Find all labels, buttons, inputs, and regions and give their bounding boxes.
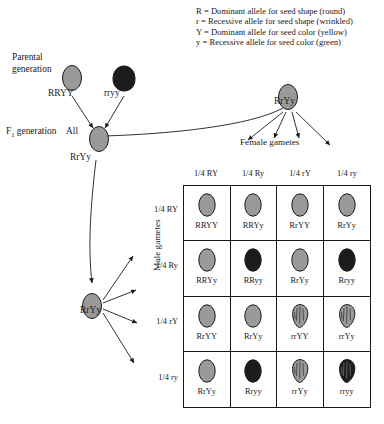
seed-wrinkled-yellow <box>335 301 359 331</box>
seed-wrinkled-yellow <box>288 301 312 331</box>
punnett-cell-genotype: RrYY <box>197 332 217 342</box>
punnett-cell-genotype: RrYY <box>290 221 310 231</box>
arrow-parent1-to-f1 <box>72 96 93 128</box>
punnett-cell-seed <box>195 301 219 331</box>
allele-legend: R = Dominant allele for seed shape (roun… <box>196 6 353 48</box>
punnett-cell-seed <box>335 301 359 331</box>
seed-round-green <box>335 245 359 275</box>
punnett-cell-seed <box>195 190 219 220</box>
male-gamete-tick-3: 1/4 rY <box>138 317 178 326</box>
punnett-cell-seed <box>335 245 359 275</box>
punnett-cell-genotype: RRYy <box>243 221 264 231</box>
punnett-cell-r4-c3[interactable]: rrYy <box>277 352 324 407</box>
punnett-cell-genotype: RrYy <box>197 387 216 397</box>
f1-generation-label: F1 generation <box>6 126 56 138</box>
seed-round-yellow <box>195 356 219 386</box>
punnett-cell-genotype: rrYY <box>291 332 309 342</box>
seed-round-yellow <box>335 190 359 220</box>
legend-line-r: r = Recessive allele for seed shape (wri… <box>196 16 353 26</box>
female-gamete-tick-1: 1/4 RY <box>183 169 229 178</box>
parental-generation-label-line1: Parental <box>12 52 52 64</box>
punnett-cell-r3-c4[interactable]: rrYy <box>324 297 371 352</box>
punnett-cell-seed <box>335 356 359 386</box>
arrow-female-gamete-4 <box>296 112 330 145</box>
punnett-cell-genotype: rryy <box>340 387 354 397</box>
seed-round-green <box>241 356 265 386</box>
arrow-male-gamete-4 <box>103 313 134 363</box>
seed-round-yellow <box>195 245 219 275</box>
seed-round-yellow <box>195 190 219 220</box>
seed-f1-round-yellow <box>90 127 109 152</box>
punnett-cell-seed <box>195 245 219 275</box>
seed-round-yellow <box>241 190 265 220</box>
punnett-cell-seed <box>288 245 312 275</box>
punnett-grid: RRYYRRYyRrYYRrYyRRYyRRyyRrYyRryyRrYYRrYy… <box>183 185 371 408</box>
punnett-cell-r2-c2[interactable]: RRyy <box>231 241 278 296</box>
punnett-cell-r3-c2[interactable]: RrYy <box>231 297 278 352</box>
female-parent-genotype: RrYy <box>274 96 295 106</box>
punnett-cell-genotype: RrYy <box>337 221 356 231</box>
punnett-cell-r2-c3[interactable]: RrYy <box>277 241 324 296</box>
punnett-cell-r3-c1[interactable]: RrYY <box>184 297 231 352</box>
male-parent-genotype: RrYy <box>80 305 101 315</box>
punnett-cell-r4-c1[interactable]: RrYy <box>184 352 231 407</box>
punnett-cell-r2-c4[interactable]: Rryy <box>324 241 371 296</box>
parental-generation-label-line2: generation <box>12 64 52 76</box>
punnett-cell-seed <box>195 356 219 386</box>
legend-line-y: y = Recessive allele for seed color (gre… <box>196 37 353 47</box>
female-gamete-tick-3: 1/4 rY <box>277 169 323 178</box>
parent1-genotype: RRYY <box>48 88 74 98</box>
seed-round-yellow <box>288 190 312 220</box>
punnett-cell-genotype: rrYy <box>292 387 308 397</box>
female-gamete-tick-2: 1/4 Ry <box>230 169 276 178</box>
punnett-cell-r4-c2[interactable]: Rryy <box>231 352 278 407</box>
curve-f1-to-female-parent <box>104 108 283 136</box>
male-gamete-tick-2: 1/4 Ry <box>138 261 178 270</box>
punnett-cell-seed <box>288 301 312 331</box>
punnett-cell-genotype: Rryy <box>245 387 262 397</box>
f1-genotype: RrYy <box>70 152 91 162</box>
male-gamete-tick-4: 1/4 ry <box>138 373 178 382</box>
punnett-cell-genotype: rrYy <box>339 332 355 342</box>
arrow-parent2-to-f1 <box>105 96 124 128</box>
seed-round-green <box>241 245 265 275</box>
seed-parent1-round-yellow <box>63 66 82 91</box>
punnett-cell-seed <box>241 301 265 331</box>
legend-line-Y: Y = Dominant allele for seed color (yell… <box>196 27 353 37</box>
punnett-cell-r1-c3[interactable]: RrYY <box>277 186 324 241</box>
female-gamete-tick-4: 1/4 ry <box>324 169 370 178</box>
legend-line-R: R = Dominant allele for seed shape (roun… <box>196 6 353 16</box>
punnett-cell-r2-c1[interactable]: RRYy <box>184 241 231 296</box>
male-gamete-tick-1: 1/4 RY <box>138 205 178 214</box>
punnett-cell-r4-c4[interactable]: rryy <box>324 352 371 407</box>
punnett-cell-genotype: RRYY <box>195 221 218 231</box>
punnett-cell-genotype: Rryy <box>338 276 355 286</box>
female-gametes-axis-label: Female gametes <box>240 137 299 147</box>
arrow-female-gamete-1 <box>248 112 283 140</box>
punnett-cell-seed <box>241 245 265 275</box>
arrow-female-gamete-3 <box>292 112 299 138</box>
arrow-female-gamete-2 <box>274 112 286 138</box>
punnett-cell-genotype: RRyy <box>244 276 263 286</box>
seed-wrinkled-yellow <box>288 356 312 386</box>
punnett-cell-seed <box>335 190 359 220</box>
seed-wrinkled-green <box>335 356 359 386</box>
punnett-cell-seed <box>241 190 265 220</box>
punnett-cell-seed <box>241 356 265 386</box>
punnett-cell-r1-c2[interactable]: RRYy <box>231 186 278 241</box>
punnett-cell-seed <box>288 190 312 220</box>
punnett-cell-r1-c4[interactable]: RrYy <box>324 186 371 241</box>
f1-all-text: All <box>66 126 78 136</box>
punnett-square-diagram: R = Dominant allele for seed shape (roun… <box>0 0 384 424</box>
punnett-cell-genotype: RrYy <box>290 276 309 286</box>
seed-round-yellow <box>241 301 265 331</box>
punnett-cell-r3-c3[interactable]: rrYY <box>277 297 324 352</box>
punnett-cell-r1-c1[interactable]: RRYY <box>184 186 231 241</box>
punnett-cell-genotype: RRYy <box>196 276 217 286</box>
parent2-genotype: rryy <box>104 88 120 98</box>
curve-f1-to-male-parent <box>90 160 96 283</box>
seed-round-yellow <box>288 245 312 275</box>
punnett-cell-genotype: RrYy <box>244 332 263 342</box>
punnett-cell-seed <box>288 356 312 386</box>
parental-generation-label: Parental generation <box>12 52 52 75</box>
